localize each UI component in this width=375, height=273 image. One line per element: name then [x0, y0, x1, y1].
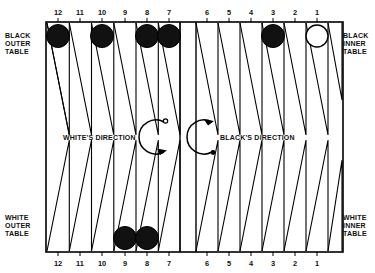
top-point-number: 7: [167, 8, 171, 17]
corner-label-white-outer-table: WHITE OUTER TABLE: [5, 214, 31, 239]
black-direction-label: BLACK'S DIRECTION: [220, 134, 295, 141]
top-point-numbers: 12 11 10 9 8 7 6 5 4 3 2 1: [54, 8, 319, 17]
bottom-point-number: 8: [145, 259, 149, 268]
bottom-point-number: 12: [54, 259, 62, 268]
bottom-point-number: 6: [205, 259, 209, 268]
top-point-number: 9: [123, 8, 127, 17]
checker-black[interactable]: [114, 227, 137, 250]
top-point-number: 12: [54, 8, 62, 17]
top-point-number: 11: [76, 8, 84, 17]
bottom-point-number: 10: [98, 259, 106, 268]
corner-label-black-outer-table: BLACK OUTER TABLE: [5, 32, 31, 57]
top-point-number: 6: [205, 8, 209, 17]
bottom-point-number: 4: [249, 259, 254, 268]
bottom-point-number: 5: [227, 259, 231, 268]
top-point-number: 5: [227, 8, 231, 17]
bottom-point-number: 1: [315, 259, 319, 268]
top-point-number: 1: [315, 8, 319, 17]
corner-label-black-inner-table: BLACK INNER TABLE: [343, 32, 369, 57]
top-point-number: 10: [98, 8, 106, 17]
checker-black[interactable]: [47, 25, 70, 48]
top-point-number: 4: [249, 8, 254, 17]
bottom-point-number: 11: [76, 259, 84, 268]
checker-black[interactable]: [262, 25, 285, 48]
bottom-point-number: 2: [293, 259, 297, 268]
bottom-point-numbers: 12 11 10 9 8 7 6 5 4 3 2 1: [54, 259, 319, 268]
bottom-point-number: 7: [167, 259, 171, 268]
top-point-number: 2: [293, 8, 297, 17]
top-point-number: 8: [145, 8, 149, 17]
corner-label-white-inner-table: WHITE INNER TABLE: [343, 214, 367, 239]
checker-white[interactable]: [306, 25, 328, 47]
white-direction-label: WHITE'S DIRECTION: [63, 134, 136, 141]
checker-black[interactable]: [136, 25, 159, 48]
black-direction-arrow-tail-dot: [211, 150, 216, 155]
board-svg: 12 11 10 9 8 7 6 5 4 3 2 1 12 11 10 9 8 …: [0, 0, 375, 273]
bottom-point-number: 3: [271, 259, 275, 268]
checker-black[interactable]: [91, 25, 114, 48]
backgammon-board-figure: 12 11 10 9 8 7 6 5 4 3 2 1 12 11 10 9 8 …: [0, 0, 375, 273]
checker-black[interactable]: [136, 227, 159, 250]
checker-black[interactable]: [158, 25, 181, 48]
bottom-point-number: 9: [123, 259, 127, 268]
top-point-number: 3: [271, 8, 275, 17]
